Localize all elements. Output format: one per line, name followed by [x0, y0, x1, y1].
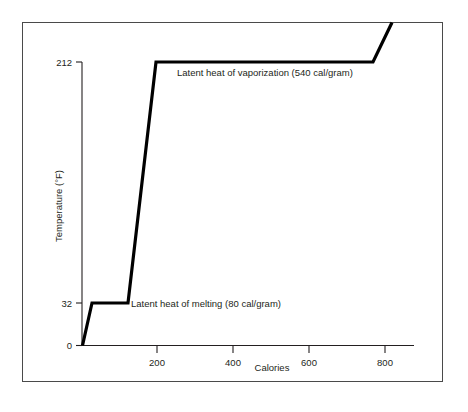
- y-tick-label-0: 0: [67, 340, 72, 351]
- x-tick-label-400: 400: [225, 357, 241, 368]
- y-tick-label-212: 212: [56, 57, 72, 68]
- x-axis-title: Calories: [255, 362, 290, 373]
- y-tick-label-32: 32: [61, 298, 72, 309]
- x-tick-label-600: 600: [301, 357, 317, 368]
- vaporization-annotation: Latent heat of vaporization (540 cal/gra…: [177, 67, 353, 78]
- heating-curve-chart: 212 32 0 200 400 600 800 Calories Temper…: [0, 0, 468, 412]
- y-axis-title: Temperature (°F): [53, 170, 64, 242]
- melting-annotation: Latent heat of melting (80 cal/gram): [131, 298, 281, 309]
- x-tick-label-800: 800: [377, 357, 393, 368]
- x-tick-label-200: 200: [149, 357, 165, 368]
